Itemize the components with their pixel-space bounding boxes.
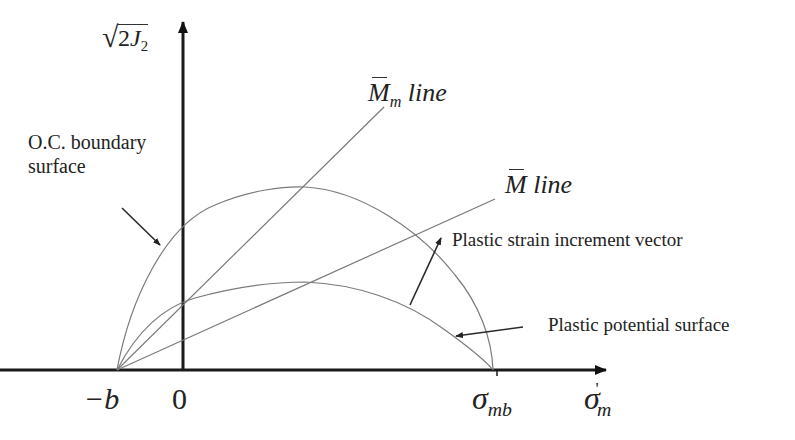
oc-boundary-pointer [122, 208, 160, 245]
yield-surface-diagram [0, 0, 795, 440]
x-label-prime: ' [595, 378, 598, 398]
m-bar-line [117, 199, 495, 370]
origin-label: 0 [172, 384, 187, 414]
oc-boundary-label-line2: surface [28, 154, 146, 178]
m-bar-text: line [533, 170, 572, 199]
oc-boundary-label-line1: O.C. boundary [28, 130, 146, 154]
x-axis-label: σ'm [584, 382, 617, 414]
y-label-var: J [130, 25, 141, 51]
m-bar-line-label: M line [505, 172, 572, 198]
m-bar-m-line [117, 107, 384, 370]
m-bar-m-symbol: M [368, 80, 390, 106]
m-bar-symbol: M [505, 172, 527, 198]
x-label-sub: m [597, 398, 611, 420]
oc-boundary-label: O.C. boundary surface [28, 130, 146, 178]
m-bar-m-text: line [408, 78, 447, 107]
plastic-strain-vector [410, 238, 441, 305]
oc-boundary-curve [117, 187, 493, 370]
plastic-potential-label: Plastic potential surface [548, 315, 730, 334]
plastic-potential-curve [117, 282, 493, 370]
y-label-coef: 2 [118, 25, 130, 51]
plastic-potential-pointer [456, 327, 523, 336]
neg-b-label: −b [84, 384, 119, 414]
y-axis-label: 2J2 [104, 24, 148, 50]
plastic-strain-label: Plastic strain increment vector [452, 230, 683, 249]
m-bar-m-sub: m [390, 93, 402, 110]
sigma-mb-symbol: σ [472, 380, 488, 416]
m-bar-m-line-label: Mm line [368, 80, 447, 106]
y-label-sub: 2 [141, 38, 148, 54]
sigma-mb-sub: mb [488, 398, 512, 420]
sigma-mb-label: σmb [472, 382, 512, 414]
